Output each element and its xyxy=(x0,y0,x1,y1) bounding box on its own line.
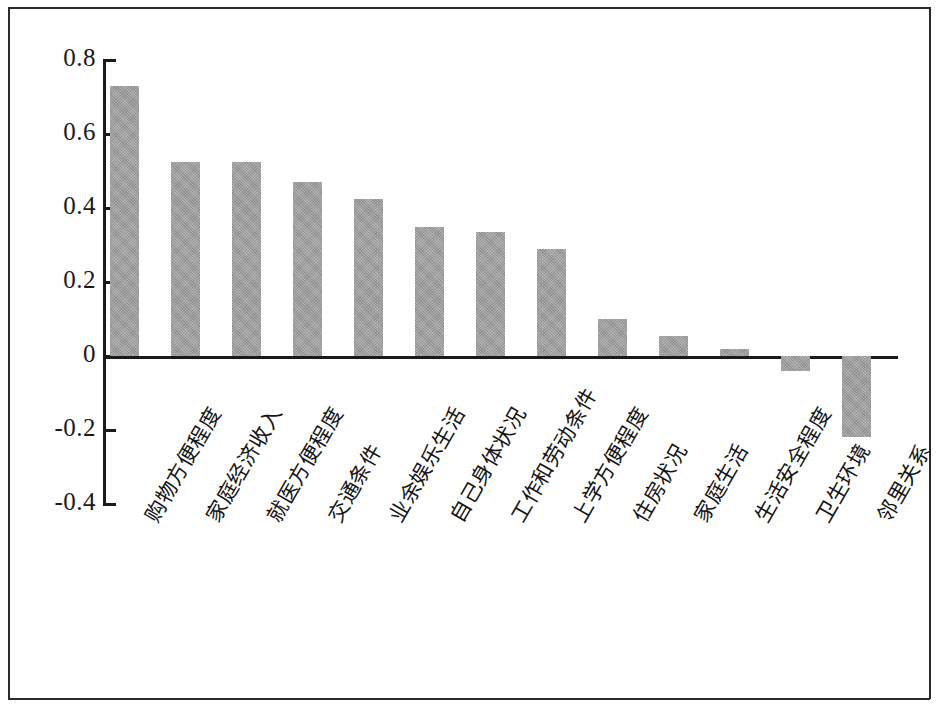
x-axis-category-label: 家庭生活 xyxy=(685,438,754,527)
x-axis-category-label: 住房状况 xyxy=(624,438,693,527)
x-axis-category-label: 交通条件 xyxy=(319,438,388,527)
bar xyxy=(415,227,444,357)
bar xyxy=(598,319,627,356)
y-axis-tick-label: 0.4 xyxy=(24,192,96,220)
y-axis-tick-mark xyxy=(103,503,116,506)
y-axis-tick-label: -0.2 xyxy=(24,414,96,442)
y-axis-tick-label: -0.4 xyxy=(24,488,96,516)
zero-baseline xyxy=(103,356,898,359)
bar xyxy=(232,162,261,356)
y-axis-tick-label: 0.6 xyxy=(24,118,96,146)
bar xyxy=(293,182,322,356)
bar xyxy=(476,232,505,356)
bar xyxy=(537,249,566,356)
chart-page: 0.80.60.40.20-0.2-0.4 购物方便程度家庭经济收入就医方便程度… xyxy=(0,0,938,706)
y-axis-tick-label: 0 xyxy=(24,340,96,368)
y-axis-tick-label: 0.2 xyxy=(24,266,96,294)
bar xyxy=(659,336,688,356)
bar xyxy=(171,162,200,356)
bar xyxy=(842,356,871,437)
bar-chart-plot-area: 0.80.60.40.20-0.2-0.4 购物方便程度家庭经济收入就医方便程度… xyxy=(0,0,938,706)
y-axis-tick-mark xyxy=(103,429,116,432)
y-axis-tick-label: 0.8 xyxy=(24,44,96,72)
bar xyxy=(110,86,139,356)
bar xyxy=(720,349,749,356)
x-axis-category-label: 卫生环境 xyxy=(807,438,876,527)
bar xyxy=(781,356,810,371)
bar xyxy=(354,199,383,356)
y-axis-tick-mark xyxy=(103,59,116,62)
x-axis-category-label: 邻里关系 xyxy=(868,438,937,527)
